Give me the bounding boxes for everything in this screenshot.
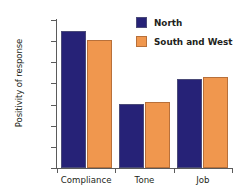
y-tick	[51, 126, 56, 127]
legend-swatch-south-and-west-icon	[136, 36, 147, 47]
x-tick	[174, 168, 175, 173]
y-tick	[51, 105, 56, 106]
y-tick	[51, 147, 56, 148]
bar-compliance-south-and-west	[87, 40, 112, 168]
bar-tone-south-and-west	[145, 102, 170, 168]
legend-item-north: North	[136, 13, 233, 32]
x-tick	[115, 168, 116, 173]
legend-item-south-and-west: South and West	[136, 32, 233, 51]
chart-legend: North South and West	[136, 13, 233, 51]
bar-job-south-and-west	[203, 77, 228, 168]
y-tick	[51, 168, 56, 169]
bar-job-north	[177, 79, 202, 168]
bar-compliance-north	[61, 31, 86, 168]
legend-label-south-and-west: South and West	[154, 37, 233, 47]
y-tick	[51, 41, 56, 42]
y-tick	[51, 83, 56, 84]
x-tick	[57, 168, 58, 173]
bar-chart: Positivity of response 00.511.522.533.5 …	[0, 0, 249, 191]
y-axis-title: Positivity of response	[14, 8, 24, 158]
y-tick	[51, 20, 56, 21]
y-tick	[51, 62, 56, 63]
legend-label-north: North	[154, 18, 182, 28]
x-axis-line	[56, 168, 232, 169]
legend-swatch-north-icon	[136, 17, 147, 28]
x-tick	[232, 168, 233, 173]
bar-tone-north	[119, 104, 144, 168]
x-tick-label-job: Job	[153, 176, 249, 185]
